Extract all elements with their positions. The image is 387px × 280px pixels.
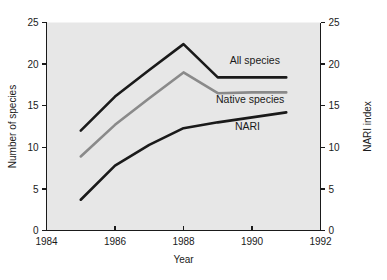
x-tick-label: 1988 <box>172 236 195 247</box>
y2-axis-title: NARI index <box>362 101 373 152</box>
y-tick-label-right: 0 <box>329 225 335 236</box>
series-label-nari: NARI <box>235 120 260 132</box>
chart-figure: 0510152025051015202519841986198819901992… <box>0 0 387 280</box>
y-tick-label-right: 5 <box>329 184 335 195</box>
y-tick-label-right: 10 <box>329 142 341 153</box>
y-tick-label-right: 15 <box>329 100 341 111</box>
y-tick-label-left: 10 <box>27 142 39 153</box>
x-tick-label: 1992 <box>309 236 332 247</box>
x-axis-title: Year <box>173 254 194 265</box>
y-tick-label-left: 0 <box>33 225 39 236</box>
y-tick-label-right: 20 <box>329 59 341 70</box>
y-tick-label-right: 25 <box>329 17 341 28</box>
series-label-native-species: Native species <box>216 93 284 105</box>
line-chart: 0510152025051015202519841986198819901992… <box>0 0 387 280</box>
y-tick-label-left: 20 <box>27 59 39 70</box>
x-tick-label: 1990 <box>241 236 264 247</box>
y-tick-label-left: 25 <box>27 17 39 28</box>
series-label-all-species: All species <box>230 54 280 66</box>
y-axis-title: Number of species <box>7 85 18 168</box>
y-tick-label-left: 5 <box>33 184 39 195</box>
x-tick-label: 1984 <box>35 236 58 247</box>
x-tick-label: 1986 <box>104 236 127 247</box>
y-tick-label-left: 15 <box>27 100 39 111</box>
